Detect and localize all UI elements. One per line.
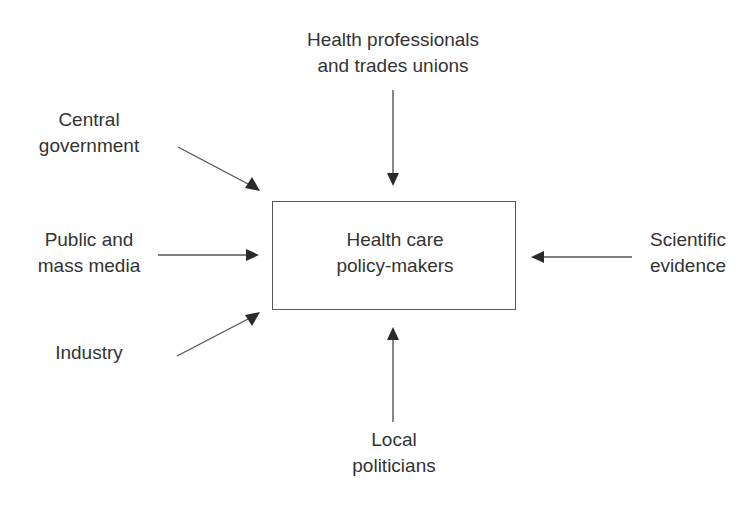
arrow-industry-line — [177, 318, 250, 356]
arrow-central-government-line — [178, 147, 250, 185]
arrowhead-up-icon — [387, 327, 399, 340]
arrows-layer — [0, 0, 755, 510]
arrowhead-down-icon — [387, 173, 399, 186]
arrowhead-left-icon — [531, 251, 544, 263]
arrowhead-right-icon — [246, 249, 259, 261]
diagram-canvas: Health care policy-makers Health profess… — [0, 0, 755, 510]
